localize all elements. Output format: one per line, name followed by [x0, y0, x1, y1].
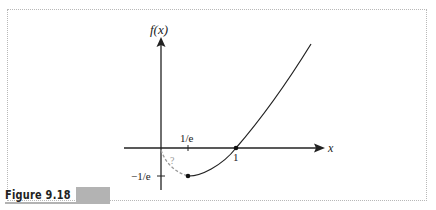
- chart-plot: f(x) x 1/e 1 −1/e ?: [0, 0, 436, 210]
- tick-label-inv-e: 1/e: [180, 132, 194, 144]
- x-axis-label: x: [327, 141, 334, 155]
- dashed-curve: [161, 150, 188, 176]
- unknown-annotation: ?: [170, 155, 175, 166]
- y-axis-label: f(x): [150, 22, 168, 37]
- tick-label-neg-inv-e: −1/e: [131, 170, 151, 182]
- min-point: [186, 174, 191, 179]
- root-point: [234, 146, 239, 151]
- caption-underline: [5, 202, 97, 204]
- function-curve: [188, 44, 311, 176]
- tick-label-one: 1: [233, 151, 239, 163]
